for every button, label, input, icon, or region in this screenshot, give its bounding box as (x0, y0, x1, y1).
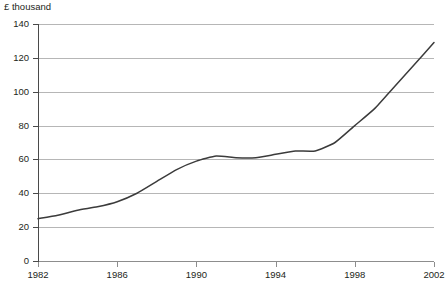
y-tick-60 (33, 159, 38, 160)
y-tick-label-80: 80 (0, 121, 29, 131)
x-tick-label-1994: 1994 (265, 269, 286, 280)
x-tick-1982 (38, 262, 39, 267)
y-tick-20 (33, 227, 38, 228)
x-tick-1998 (355, 262, 356, 267)
y-tick-40 (33, 193, 38, 194)
y-tick-140 (33, 24, 38, 25)
series-line-layer (0, 0, 448, 283)
x-tick-label-1986: 1986 (107, 269, 128, 280)
y-tick-label-40: 40 (0, 188, 29, 198)
y-tick-label-60: 60 (0, 154, 29, 164)
y-tick-100 (33, 92, 38, 93)
x-tick-label-2002: 2002 (423, 269, 444, 280)
y-tick-label-140: 140 (0, 19, 29, 29)
x-tick-label-1990: 1990 (186, 269, 207, 280)
y-tick-label-100: 100 (0, 87, 29, 97)
x-tick-1994 (276, 262, 277, 267)
y-tick-80 (33, 126, 38, 127)
y-tick-label-20: 20 (0, 222, 29, 232)
y-tick-label-0: 0 (0, 256, 29, 266)
series-line-path (38, 43, 434, 219)
x-tick-label-1998: 1998 (344, 269, 365, 280)
line-chart: £ thousand 14012010080604020019821986199… (0, 0, 448, 283)
x-tick-1990 (196, 262, 197, 267)
y-tick-120 (33, 58, 38, 59)
x-tick-label-1982: 1982 (27, 269, 48, 280)
y-tick-label-120: 120 (0, 53, 29, 63)
x-tick-1986 (117, 262, 118, 267)
x-tick-2002 (434, 262, 435, 267)
